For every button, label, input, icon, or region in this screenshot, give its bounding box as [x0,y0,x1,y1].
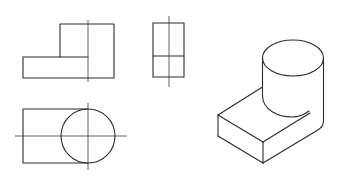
side-view-outline [153,23,184,77]
front-view [23,20,114,82]
cylinder-base-intersection-arc [263,96,310,117]
base-top-front-right-edge [263,113,310,142]
top-view [15,103,127,170]
cylinder-top-face [263,40,324,76]
front-view-outline [23,24,114,78]
base-bottom-left-edge [218,136,263,163]
technical-drawing [0,0,341,181]
isometric-view [218,40,324,163]
cylinder-right-edge [263,58,324,163]
base-top-front-left-edge [218,115,263,142]
side-view [153,16,184,87]
base-top-back-edge [218,87,263,115]
